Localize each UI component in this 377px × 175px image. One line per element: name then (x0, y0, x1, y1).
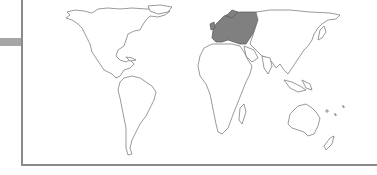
region-australia (288, 104, 320, 136)
region-japan (318, 26, 326, 40)
region-south-america (118, 76, 156, 155)
region-pacific-islands (326, 106, 344, 116)
frame-bottom-border (21, 164, 377, 166)
world-map (24, 0, 377, 164)
side-tab-bar (0, 38, 22, 46)
region-africa (198, 44, 252, 134)
region-new-zealand (324, 136, 334, 150)
region-caribbean (126, 57, 136, 61)
region-southeast-asia-islands (284, 80, 312, 92)
frame-left-border (21, 0, 23, 166)
region-india (262, 56, 272, 74)
region-north-america (66, 8, 170, 78)
region-madagascar (239, 104, 246, 124)
